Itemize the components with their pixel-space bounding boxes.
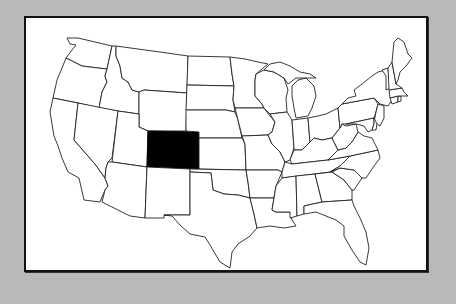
state-kansas[interactable] xyxy=(199,138,246,170)
state-new-mexico[interactable] xyxy=(145,167,190,218)
state-north-dakota[interactable] xyxy=(187,56,234,86)
state-maine[interactable] xyxy=(392,38,412,84)
state-south-dakota[interactable] xyxy=(186,85,235,112)
state-rhode-island[interactable] xyxy=(398,96,401,102)
state-arizona[interactable] xyxy=(102,162,147,218)
us-map xyxy=(0,0,456,304)
state-florida[interactable] xyxy=(304,200,369,265)
state-colorado[interactable] xyxy=(147,131,199,169)
state-wyoming[interactable] xyxy=(139,90,187,131)
